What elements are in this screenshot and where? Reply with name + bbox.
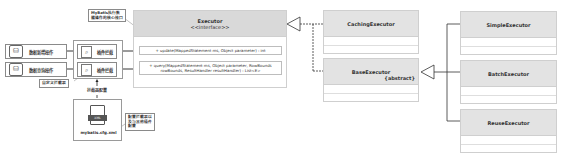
query-operation-label: 数据查询操作: [29, 67, 53, 73]
database-icon: ⛁: [9, 45, 23, 58]
custom-interceptor-note: 自定义拦截器: [39, 79, 69, 88]
insert-operation-label: 数据新增操作: [29, 49, 53, 55]
executor-header: Executor <<interface>>: [134, 11, 286, 37]
interceptor-config-label: 拦截器配置: [80, 87, 114, 93]
config-file-label: mybatis.cfg.xml: [74, 130, 123, 135]
interceptor-icon: ⌕: [81, 64, 92, 76]
insert-operation-box: ⛁ 数据新增操作: [5, 44, 67, 59]
database-icon: ⛁: [9, 63, 23, 76]
reuse-executor-class: ReuseExecutor: [460, 109, 557, 153]
query-method: + query(MappedStatement ms, Object param…: [139, 61, 282, 75]
xml-file-icon: XML: [90, 105, 105, 125]
batch-executor-name: BatchExecutor: [488, 71, 529, 77]
caching-executor-class: CachingExecutor: [323, 10, 419, 54]
base-executor-stereotype: {abstract}: [384, 75, 415, 81]
simple-executor-class: SimpleExecutor: [460, 11, 557, 55]
executor-stereotype: <<interface>>: [190, 24, 229, 30]
executor-note: MyBatis执行数据操作的核心接口: [88, 9, 126, 22]
caching-executor-attributes: [324, 37, 418, 46]
config-note: 配置拦截器以及与其他插件配置: [125, 113, 155, 131]
caching-executor-name: CachingExecutor: [347, 21, 394, 27]
interceptor-icon: ⌕: [81, 46, 92, 58]
simple-executor-name: SimpleExecutor: [486, 22, 530, 28]
query-operation-box: ⛁ 数据查询操作: [5, 62, 67, 77]
base-executor-attributes: [324, 85, 418, 94]
plugin-interceptor-box-2: ⌕ 插件拦截: [77, 62, 117, 77]
base-executor-class: BaseExecutor {abstract}: [323, 58, 419, 102]
config-file-box: XML mybatis.cfg.xml: [73, 99, 122, 141]
reuse-executor-name: ReuseExecutor: [487, 120, 529, 126]
update-method: + update(MappedStatement ms, Object para…: [139, 46, 282, 55]
plugin-interceptor-box-1: ⌕ 插件拦截: [77, 44, 117, 59]
caching-executor-header: CachingExecutor: [324, 11, 418, 37]
base-executor-name: BaseExecutor: [352, 69, 390, 75]
base-executor-header: BaseExecutor {abstract}: [324, 59, 418, 85]
batch-executor-class: BatchExecutor: [460, 60, 557, 104]
